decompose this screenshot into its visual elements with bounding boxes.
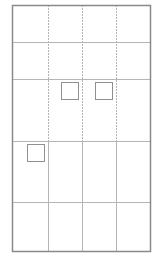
marker-squares — [28, 83, 113, 162]
horizontal-grid-lines — [12, 43, 150, 203]
square-marker — [28, 145, 45, 162]
square-marker — [96, 83, 113, 100]
grid-diagram — [0, 0, 163, 256]
vertical-grid-lines — [49, 5, 117, 251]
square-marker — [62, 83, 79, 100]
